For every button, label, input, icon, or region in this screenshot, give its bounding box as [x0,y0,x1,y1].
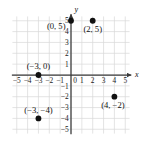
y-axis-label: y [73,5,78,14]
x-tick-label: −5 [13,76,21,85]
data-point-label: (0, 5) [47,21,66,31]
data-point-label: (−3, −4) [24,105,52,115]
x-axis-tick-labels: −5−4−3−2−1012345 [13,76,128,85]
y-tick-label: −1 [61,82,69,91]
scatter-plot-svg: xy−5−4−3−2−101234554321−1−2−3−4−5(0, 5)(… [0,0,155,141]
data-point-marker [36,72,42,78]
data-point-label: (4, −2) [101,100,125,110]
x-tick-label: −2 [45,76,53,85]
x-tick-label: −4 [24,76,32,85]
y-tick-label: 2 [65,49,69,58]
data-points: (0, 5)(2, 5)(−3, 0)(−3, −4)(4, −2) [24,18,124,121]
data-point-marker [68,18,74,24]
x-tick-label: 1 [80,76,84,85]
data-point-marker [36,116,42,122]
x-tick-label: 2 [91,76,95,85]
y-tick-label: −5 [61,125,69,134]
y-tick-label: 1 [65,60,69,69]
y-tick-label: −4 [61,114,69,123]
y-tick-label: −2 [61,92,69,101]
x-tick-label: 0 [73,76,77,85]
data-point-marker [90,18,96,24]
y-tick-label: 3 [65,38,69,47]
axes [12,14,131,134]
x-tick-label: 5 [123,76,127,85]
x-tick-label: 3 [102,76,106,85]
x-tick-label: 4 [113,76,117,85]
data-point-label: (−3, 0) [27,61,51,71]
data-point-label: (2, 5) [83,24,102,34]
coordinate-plane-figure: xy−5−4−3−2−101234554321−1−2−3−4−5(0, 5)(… [0,0,155,141]
y-tick-label: −3 [61,103,69,112]
x-axis-label: x [134,70,139,79]
